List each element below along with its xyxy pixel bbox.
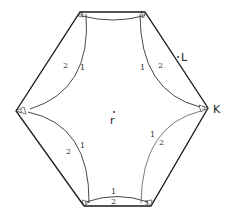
corner-label-top-right: 3	[142, 11, 145, 17]
label-upper-left-outer: 2	[63, 61, 68, 70]
arc-lower-left	[28, 112, 89, 203]
corner-label-top-left: 3	[79, 11, 82, 17]
hexagon-outline	[16, 12, 208, 206]
label-lower-right-outer: 2	[159, 138, 164, 147]
arc-upper-right	[140, 14, 200, 107]
center-point	[113, 111, 115, 113]
hexagon-diagram: 3 3 3 3 1 3 2 1 1 2 2 1 1 2 1 2 L K r	[0, 0, 233, 221]
label-center: r	[110, 114, 115, 127]
label-upper-left-inner: 1	[80, 63, 85, 72]
label-lower-right-inner: 1	[150, 130, 155, 139]
corner-label-right: 3	[202, 105, 205, 111]
label-bottom-inner: 1	[111, 187, 116, 196]
arc-lower-right	[141, 111, 201, 203]
label-bottom-outer: 2	[111, 197, 116, 206]
corner-label-bottom-left: 1	[84, 200, 87, 206]
label-upper-right-outer: 2	[158, 61, 163, 70]
arc-upper-left	[30, 14, 87, 109]
bottom-chord	[86, 197, 148, 203]
top-chord	[82, 16, 143, 20]
label-upper-right-inner: 1	[140, 63, 145, 72]
label-K: K	[213, 103, 221, 116]
label-lower-left-inner: 1	[80, 141, 85, 150]
corner-label-left: 3	[19, 108, 22, 114]
corner-label-bottom-right: 3	[145, 200, 148, 206]
label-lower-left-outer: 2	[66, 147, 71, 156]
point-L	[177, 56, 179, 58]
label-L: L	[181, 51, 188, 64]
